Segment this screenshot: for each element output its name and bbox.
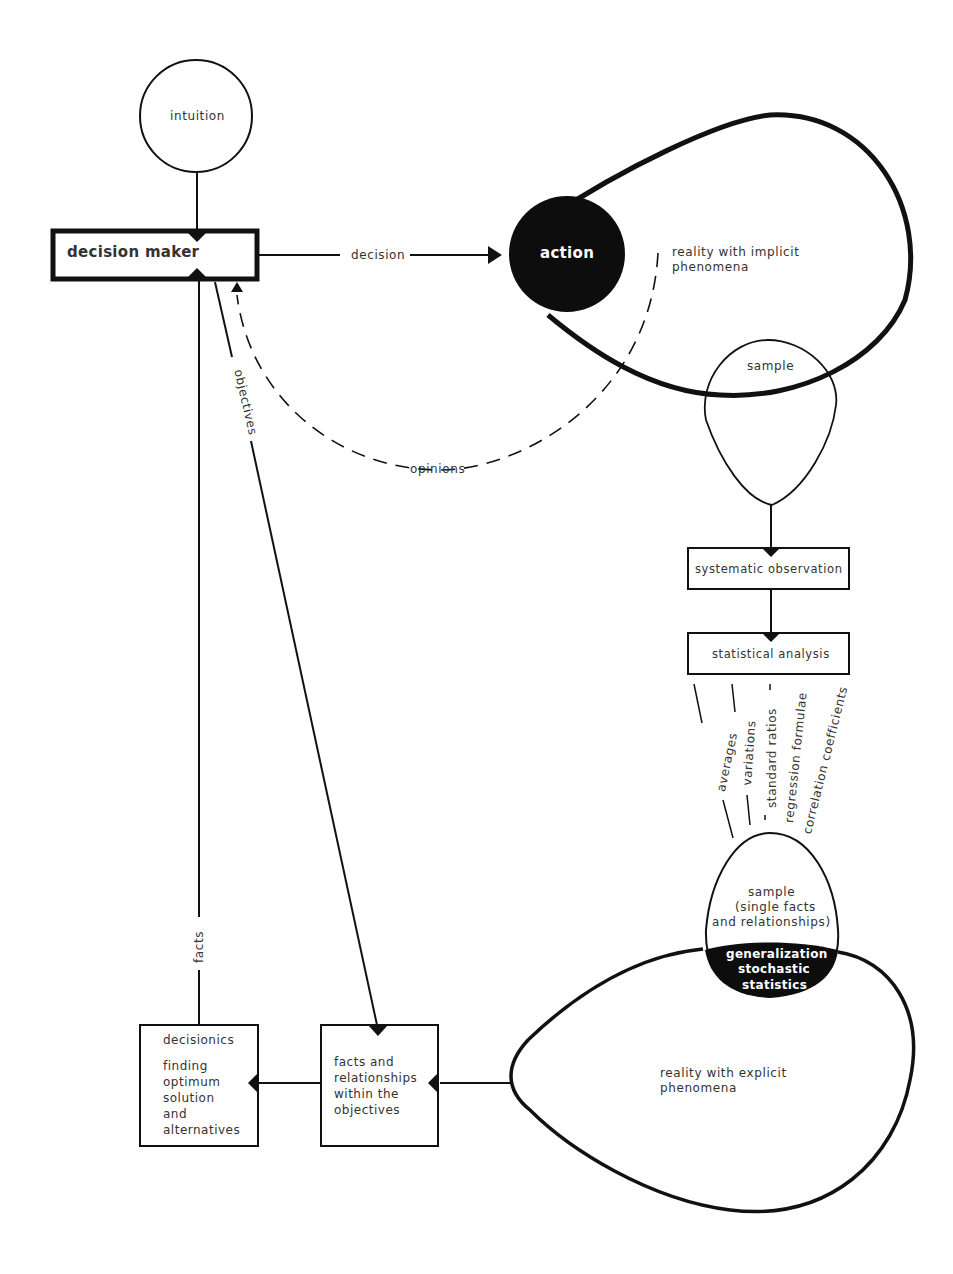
fan-line-averages-top xyxy=(694,684,702,723)
facts-relationships-text: facts and relationships within the objec… xyxy=(334,1054,417,1118)
decisionics-line-3: solution xyxy=(163,1090,240,1106)
statistical-analysis-label: statistical analysis xyxy=(712,647,830,662)
fan-line-variations-top xyxy=(732,684,735,712)
facts-relationships-line-2: relationships xyxy=(334,1070,417,1086)
systematic-observation-label: systematic observation xyxy=(695,562,843,577)
decisionics-line-2: optimum xyxy=(163,1074,240,1090)
decision-edge-label: decision xyxy=(351,248,405,263)
decision-maker-label: decision maker xyxy=(67,245,199,260)
opinions-edge-label: opinions xyxy=(410,462,465,477)
reality-implicit-label-2: phenomena xyxy=(672,260,749,275)
diagram-canvas xyxy=(0,0,953,1274)
generalization-line-3: statistics xyxy=(742,978,807,993)
fan-line-variations-bottom xyxy=(747,795,750,825)
decisionics-line-1: finding xyxy=(163,1058,240,1074)
intuition-label: intuition xyxy=(170,109,225,124)
generalization-line-2: stochastic xyxy=(738,962,810,977)
opinions-arrowhead-icon xyxy=(231,282,243,292)
decision-arrow-icon xyxy=(488,246,502,264)
facts-relationships-line-1: facts and xyxy=(334,1054,417,1070)
decisionics-title: decisionics xyxy=(163,1032,240,1048)
sample-top-label: sample xyxy=(747,359,794,374)
reality-explicit-label-2: phenomena xyxy=(660,1081,737,1096)
reality-implicit-label-1: reality with implicit xyxy=(672,245,800,260)
fan-line-averages-bottom xyxy=(723,800,733,838)
standard-ratios-label: standard ratios xyxy=(765,708,780,808)
sample-bottom-line-3: and relationships) xyxy=(712,915,831,930)
facts-relationships-line-4: objectives xyxy=(334,1102,417,1118)
decisionics-text: decisionics finding optimum solution and… xyxy=(163,1032,240,1138)
facts-relationships-line-3: within the xyxy=(334,1086,417,1102)
sample-bottom-line-2: (single facts xyxy=(735,900,816,915)
action-label: action xyxy=(540,246,594,261)
reality-explicit-label-1: reality with explicit xyxy=(660,1066,787,1081)
generalization-line-1: generalization xyxy=(726,947,828,962)
objectives-edge-upper xyxy=(215,282,232,357)
decisionics-line-5: alternatives xyxy=(163,1122,240,1138)
facts-edge-label: facts xyxy=(192,931,207,963)
objectives-edge-lower xyxy=(251,441,377,1025)
sample-bottom-line-1: sample xyxy=(748,885,795,900)
decisionics-line-4: and xyxy=(163,1106,240,1122)
